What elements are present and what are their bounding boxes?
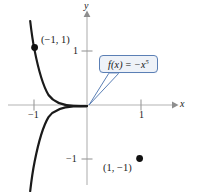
function-curve-right-branch xyxy=(30,106,87,191)
callout-pointer-tail xyxy=(89,73,119,105)
x-tick-label-neg1: −1 xyxy=(28,110,39,120)
y-axis-label: y xyxy=(84,1,88,11)
function-graph-figure: x y −1 1 1 −1 (−1, 1) (1, −1) f(x) = −x5 xyxy=(0,0,220,192)
callout-expression-base: −x xyxy=(134,59,146,70)
point-marker-neg1-1 xyxy=(31,44,38,51)
point-marker-1-neg1 xyxy=(136,155,143,162)
x-axis-arrow-icon xyxy=(172,102,179,109)
function-callout-text: f(x) = −x5 xyxy=(108,58,149,70)
y-tick-label-1: 1 xyxy=(73,46,78,56)
x-axis-label: x xyxy=(180,99,184,109)
x-tick-label-1: 1 xyxy=(139,110,144,120)
y-tick-label-neg1: −1 xyxy=(66,154,77,164)
point-label-neg1-1: (−1, 1) xyxy=(41,35,70,46)
y-axis-arrow-icon xyxy=(84,11,91,18)
callout-expression-exponent: 5 xyxy=(146,58,149,65)
callout-function-name: f(x) xyxy=(108,59,123,70)
point-label-1-neg1: (1, −1) xyxy=(103,163,132,174)
function-callout-box: f(x) = −x5 xyxy=(99,55,158,73)
